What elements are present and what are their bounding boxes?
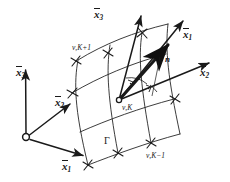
global-axis-x2-label: x2 — [55, 96, 64, 110]
global-axis-x1-line — [30, 140, 83, 156]
mesh-line-left — [76, 60, 88, 165]
global-origin-marker — [23, 134, 30, 141]
diagram-vector-layer — [0, 0, 230, 182]
tick-left-upper-2 — [72, 56, 80, 66]
local-axis-x3-label: x3 — [94, 8, 103, 22]
node-label-k-plus-1: ν,K+1 — [72, 44, 91, 52]
tick-node-k-plus-1-2 — [104, 48, 112, 58]
local-axis-x2-label: x2 — [200, 66, 209, 80]
normal-vector-label: n — [165, 55, 170, 64]
mesh-curve-top — [78, 24, 168, 60]
node-label-k: ν,K — [122, 104, 132, 112]
global-axis-x3-label: x3 — [16, 66, 25, 80]
tick-node-k-minus-1-2 — [147, 138, 155, 148]
figure-canvas: x3 x2 x1 x3 x1 x2 n ν,K+1 ν,K ν,K−1 Γ — [0, 0, 230, 182]
surface-label-gamma: Γ — [104, 136, 110, 146]
node-label-k-minus-1: ν,K−1 — [146, 152, 165, 160]
local-axis-x1-label: x1 — [183, 28, 192, 42]
mesh-curve-bottom — [88, 134, 180, 165]
global-axis-x1-label: x1 — [62, 160, 71, 174]
local-origin-node-marker — [116, 97, 121, 102]
global-coordinate-system — [23, 70, 83, 156]
tick-bottom-left-2 — [84, 160, 92, 170]
local-coordinate-system — [116, 16, 209, 103]
